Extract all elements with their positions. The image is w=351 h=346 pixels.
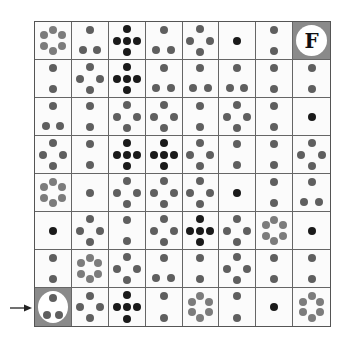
board-cell-r5-c6[interactable] — [219, 174, 256, 212]
pip-dot-icon — [316, 308, 324, 316]
pip-dot-icon — [43, 311, 51, 319]
pip-dot-icon — [206, 227, 214, 235]
board-cell-r4-c5[interactable] — [183, 136, 220, 174]
board-cell-r1-c2[interactable] — [72, 22, 109, 60]
board-cell-r3-c4[interactable] — [146, 98, 183, 136]
board-cell-r8-c8[interactable] — [293, 288, 330, 326]
board-cell-r7-c3[interactable] — [109, 250, 146, 288]
board-cell-r7-c6[interactable] — [219, 250, 256, 288]
board-cell-r4-c4[interactable] — [146, 136, 183, 174]
pip-dot-icon — [186, 227, 194, 235]
board-cell-r4-c2[interactable] — [72, 136, 109, 174]
board-cell-r3-c3[interactable] — [109, 98, 146, 136]
board-cell-r6-c3[interactable] — [109, 212, 146, 250]
pip-dot-icon — [308, 113, 316, 121]
board-cell-r7-c1[interactable] — [35, 250, 72, 288]
pip-dot-icon — [196, 162, 204, 170]
board-cell-r4-c1[interactable] — [35, 136, 72, 174]
board-cell-r5-c8[interactable] — [293, 174, 330, 212]
board-cell-r1-c6[interactable] — [219, 22, 256, 60]
board-cell-r6-c4[interactable] — [146, 212, 183, 250]
board-cell-r1-c1[interactable] — [35, 22, 72, 60]
board-cell-r6-c1[interactable] — [35, 212, 72, 250]
board-cell-r5-c3[interactable] — [109, 174, 146, 212]
board-cell-r3-c7[interactable] — [256, 98, 293, 136]
board-cell-r4-c7[interactable] — [256, 136, 293, 174]
pip-dot-icon — [160, 64, 168, 72]
board-cell-r6-c2[interactable] — [72, 212, 109, 250]
pip-dot-icon — [58, 42, 66, 50]
pip-dot-icon — [86, 215, 94, 223]
board-cell-r2-c6[interactable] — [219, 60, 256, 98]
board-cell-r5-c4[interactable] — [146, 174, 183, 212]
pip-dot-icon — [308, 139, 316, 147]
pip-dot-icon — [123, 151, 131, 159]
pip-dot-icon — [316, 298, 324, 306]
board-cell-r3-c2[interactable] — [72, 98, 109, 136]
board-cell-r8-c4[interactable] — [146, 288, 183, 326]
board-cell-r7-c2[interactable] — [72, 250, 109, 288]
pip-dot-icon — [123, 237, 131, 245]
board-cell-r7-c4[interactable] — [146, 250, 183, 288]
board-cell-r3-c1[interactable] — [35, 98, 72, 136]
pip-dot-icon — [133, 189, 141, 197]
board-cell-r2-c8[interactable] — [293, 60, 330, 98]
board-cell-r2-c4[interactable] — [146, 60, 183, 98]
board-cell-r2-c1[interactable] — [35, 60, 72, 98]
finish-cell[interactable]: F — [293, 22, 330, 60]
board-cell-r4-c3[interactable] — [109, 136, 146, 174]
board-cell-r2-c3[interactable] — [109, 60, 146, 98]
board-cell-r4-c8[interactable] — [293, 136, 330, 174]
board-cell-r3-c8[interactable] — [293, 98, 330, 136]
pip-dot-icon — [49, 162, 57, 170]
pip-dot-icon — [59, 151, 67, 159]
board-cell-r5-c5[interactable] — [183, 174, 220, 212]
board-cell-r8-c5[interactable] — [183, 288, 220, 326]
board-cell-r6-c5[interactable] — [183, 212, 220, 250]
pip-dot-icon — [318, 151, 326, 159]
board-cell-r5-c2[interactable] — [72, 174, 109, 212]
pip-dot-icon — [262, 221, 270, 229]
pip-dot-icon — [77, 259, 85, 267]
pip-dot-icon — [49, 139, 57, 147]
pip-dot-icon — [133, 303, 141, 311]
board-cell-r5-c1[interactable] — [35, 174, 72, 212]
board-cell-r6-c7[interactable] — [256, 212, 293, 250]
board-cell-r7-c8[interactable] — [293, 250, 330, 288]
pip-dot-icon — [39, 151, 47, 159]
pip-dot-icon — [123, 63, 131, 71]
pip-dot-icon — [40, 31, 48, 39]
board-cell-r3-c6[interactable] — [219, 98, 256, 136]
board-cell-r1-c5[interactable] — [183, 22, 220, 60]
board-cell-r2-c5[interactable] — [183, 60, 220, 98]
pip-dot-icon — [152, 274, 160, 282]
pip-dot-icon — [123, 276, 131, 284]
start-cell[interactable] — [35, 288, 72, 326]
board-cell-r7-c7[interactable] — [256, 250, 293, 288]
board-cell-r6-c6[interactable] — [219, 212, 256, 250]
pip-dot-icon — [113, 189, 121, 197]
game-board: F — [34, 21, 331, 327]
board-cell-r1-c3[interactable] — [109, 22, 146, 60]
board-cell-r8-c7[interactable] — [256, 288, 293, 326]
pip-dot-icon — [233, 140, 241, 148]
board-cell-r8-c2[interactable] — [72, 288, 109, 326]
pip-dot-icon — [133, 113, 141, 121]
pip-dot-icon — [270, 140, 278, 148]
board-cell-r3-c5[interactable] — [183, 98, 220, 136]
board-cell-r6-c8[interactable] — [293, 212, 330, 250]
pip-dot-icon — [123, 253, 131, 261]
board-cell-r8-c3[interactable] — [109, 288, 146, 326]
board-cell-r1-c7[interactable] — [256, 22, 293, 60]
board-cell-r1-c4[interactable] — [146, 22, 183, 60]
pip-dot-icon — [308, 254, 316, 262]
pip-dot-icon — [233, 276, 241, 284]
board-cell-r5-c7[interactable] — [256, 174, 293, 212]
pip-dot-icon — [49, 47, 57, 55]
board-cell-r2-c7[interactable] — [256, 60, 293, 98]
board-cell-r8-c6[interactable] — [219, 288, 256, 326]
board-cell-r7-c5[interactable] — [183, 250, 220, 288]
board-cell-r4-c6[interactable] — [219, 136, 256, 174]
pip-dot-icon — [186, 151, 194, 159]
board-cell-r2-c2[interactable] — [72, 60, 109, 98]
